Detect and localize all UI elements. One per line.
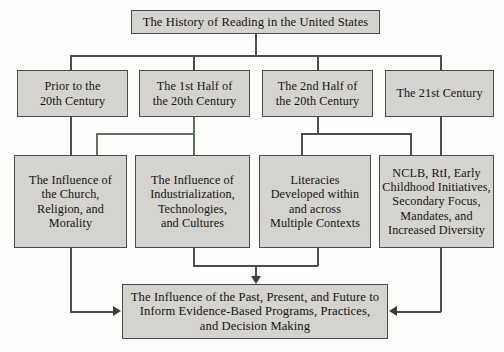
connector-rail-to-era-3 bbox=[317, 55, 319, 71]
connector-theme3-stem bbox=[317, 248, 319, 266]
connector-era-rail bbox=[70, 55, 441, 57]
flowchart-canvas: The History of Reading in the United Sta… bbox=[0, 0, 504, 352]
node-era-prior-20th-century[interactable]: Prior to the 20th Century bbox=[17, 70, 128, 117]
connector-rail-to-era-1 bbox=[70, 55, 72, 71]
connector-era2-fan-rail bbox=[96, 133, 194, 135]
node-era-second-half-20th-century[interactable]: The 2nd Half of the 20th Century bbox=[262, 70, 373, 117]
connector-era3-fan-to-theme3 bbox=[301, 133, 303, 156]
node-era-first-half-20th-century[interactable]: The 1st Half of the 20th Century bbox=[139, 70, 250, 117]
connector-era3-stem bbox=[317, 117, 319, 134]
arrowhead-into-summary-top bbox=[251, 276, 261, 284]
arrowhead-into-summary-right bbox=[389, 306, 397, 316]
node-era-21st-century[interactable]: The 21st Century bbox=[385, 70, 494, 117]
connector-rail-to-era-4 bbox=[440, 55, 442, 71]
node-theme-literacies-multiple-contexts[interactable]: Literacies Developed within and across M… bbox=[259, 155, 371, 248]
connector-era3-fan-rail bbox=[301, 133, 411, 135]
connector-era2-stem bbox=[193, 117, 195, 134]
connector-era4-to-theme4 bbox=[440, 117, 442, 156]
connector-theme2-stem bbox=[193, 248, 195, 266]
connector-era2-fan-to-theme2 bbox=[193, 133, 195, 156]
node-theme-nclb-rti-initiatives[interactable]: NCLB, RtI, Early Childhood Initiatives, … bbox=[379, 155, 494, 248]
connector-era1-to-theme1 bbox=[70, 117, 72, 156]
node-title[interactable]: The History of Reading in the United Sta… bbox=[131, 10, 380, 34]
connector-theme1-stem bbox=[70, 248, 72, 312]
node-theme-industrialization-technologies-cultures[interactable]: The Influence of Industrialization, Tech… bbox=[135, 155, 250, 248]
node-summary-influence-past-present-future[interactable]: The Influence of the Past, Present, and … bbox=[122, 284, 388, 339]
connector-title-stem bbox=[255, 34, 257, 56]
connector-theme4-stem bbox=[440, 248, 442, 312]
connector-theme4-bottom-run bbox=[396, 311, 441, 313]
node-theme-church-religion-morality[interactable]: The Influence of the Church, Religion, a… bbox=[14, 155, 127, 248]
connector-rail-to-era-2 bbox=[193, 55, 195, 71]
connector-era3-fan-to-theme4 bbox=[410, 133, 412, 156]
arrowhead-into-summary-left bbox=[113, 306, 121, 316]
connector-era2-fan-to-theme1 bbox=[96, 133, 98, 156]
connector-theme1-bottom-run bbox=[70, 311, 116, 313]
